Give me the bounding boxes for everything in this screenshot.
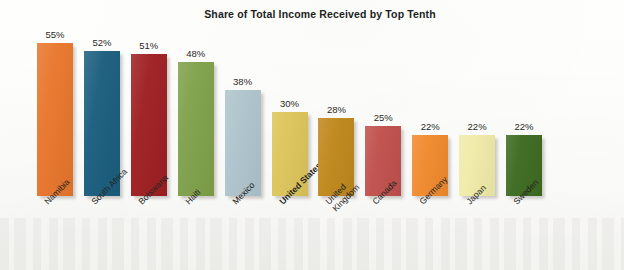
bar-sheen — [178, 62, 214, 196]
bar-value-label: 52% — [76, 37, 128, 48]
plot-area: 55%Namibia52%South Africa51%Botswana48%H… — [0, 0, 624, 270]
bar-value-label: 55% — [29, 29, 81, 40]
bar-value-label: 22% — [451, 121, 503, 132]
bar-chart: Share of Total Income Received by Top Te… — [0, 0, 624, 270]
bar-value-label: 30% — [264, 98, 316, 109]
bar-value-label: 25% — [357, 112, 409, 123]
bar[interactable] — [37, 43, 73, 196]
bar[interactable] — [178, 62, 214, 196]
bar-sheen — [37, 43, 73, 196]
bar[interactable] — [225, 90, 261, 196]
bar-value-label: 22% — [498, 121, 550, 132]
bar-value-label: 48% — [170, 48, 222, 59]
bar-value-label: 38% — [217, 76, 269, 87]
bar-value-label: 51% — [123, 40, 175, 51]
bar-value-label: 28% — [310, 104, 362, 115]
bar-sheen — [225, 90, 261, 196]
bar-value-label: 22% — [404, 121, 456, 132]
